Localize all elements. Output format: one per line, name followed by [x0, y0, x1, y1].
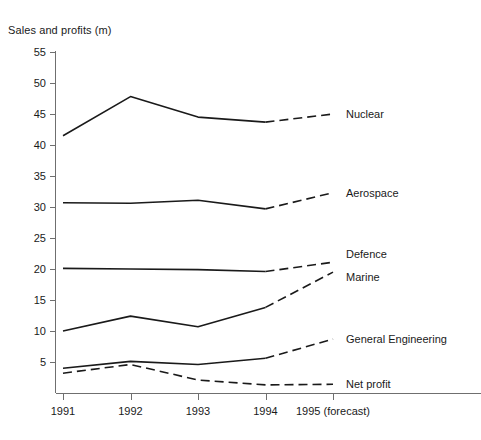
series-lines	[63, 97, 333, 385]
y-axis: 510152025303540455055	[34, 46, 56, 393]
x-tick-label: 1991	[51, 405, 75, 417]
series-line-marine	[63, 307, 266, 331]
series-labels: NuclearAerospaceDefenceMarineGeneral Eng…	[346, 108, 447, 390]
series-line-nuclear	[63, 97, 266, 136]
x-tick-label: 1994	[253, 405, 277, 417]
series-line-defence	[63, 268, 266, 271]
series-label-general-engineering: General Engineering	[346, 333, 447, 345]
y-tick-label: 30	[34, 201, 46, 213]
series-forecast-general-engineering	[266, 339, 334, 358]
series-label-marine: Marine	[346, 271, 380, 283]
line-chart-plot: 510152025303540455055 199119921993199419…	[0, 0, 481, 440]
x-tick-label: 1993	[186, 405, 210, 417]
series-forecast-marine	[266, 272, 334, 307]
y-tick-label: 5	[40, 356, 46, 368]
y-tick-label: 20	[34, 263, 46, 275]
series-line-aerospace	[63, 200, 266, 209]
series-forecast-aerospace	[266, 193, 334, 209]
y-tick-label: 50	[34, 77, 46, 89]
series-forecast-defence	[266, 262, 334, 271]
series-label-nuclear: Nuclear	[346, 108, 384, 120]
series-line-net-profit	[63, 365, 333, 385]
series-label-net-profit: Net profit	[346, 378, 391, 390]
x-axis: 19911992199319941995 (forecast)	[51, 394, 481, 418]
series-label-defence: Defence	[346, 248, 387, 260]
series-line-general-engineering	[63, 358, 266, 368]
y-tick-label: 25	[34, 232, 46, 244]
y-tick-label: 15	[34, 294, 46, 306]
y-tick-label: 55	[34, 46, 46, 58]
y-tick-label: 10	[34, 325, 46, 337]
chart-page: Sales and profits (m) 510152025303540455…	[0, 0, 481, 440]
x-tick-label: 1992	[118, 405, 142, 417]
x-tick-label: 1995 (forecast)	[296, 405, 370, 417]
series-forecast-nuclear	[266, 114, 334, 122]
series-label-aerospace: Aerospace	[346, 187, 399, 199]
y-tick-label: 45	[34, 108, 46, 120]
y-tick-label: 40	[34, 139, 46, 151]
y-tick-label: 35	[34, 170, 46, 182]
